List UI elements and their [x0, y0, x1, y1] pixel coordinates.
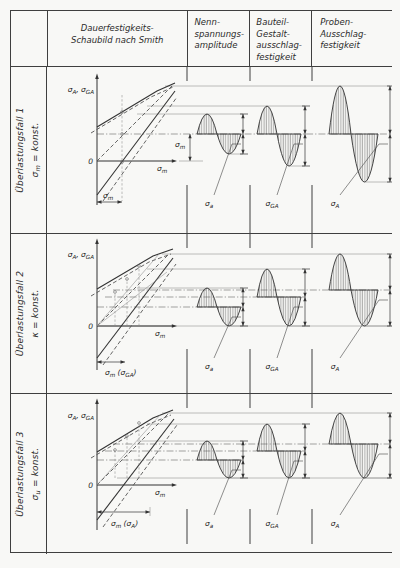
case-3-rotated-label: Überlastungsfall 3 σu = konst. — [13, 394, 46, 554]
wave-negative-pulse — [277, 134, 301, 166]
upper-limit-curve — [97, 410, 173, 452]
dimension-arrowhead — [303, 293, 306, 297]
wave-negative-pulse — [277, 451, 301, 478]
header-line: Gestalt- — [256, 29, 311, 41]
dimension-arrowhead — [303, 106, 306, 110]
overload-case-1-row: Überlastungsfall 1 σm = konst. — [11, 67, 392, 234]
case-1-label-cell: Überlastungsfall 1 σm = konst. — [11, 67, 47, 233]
dimension-arrowhead — [118, 200, 123, 203]
dimension-arrowhead — [388, 178, 391, 182]
dimension-arrowhead — [388, 322, 391, 326]
dimension-arrowhead — [97, 510, 102, 513]
case-condition: σu = konst. — [28, 394, 46, 554]
dimension-arrowhead — [303, 447, 306, 451]
dimension-arrowhead — [303, 451, 306, 455]
wave-negative-pulse — [351, 134, 378, 182]
wave-positive-pulse — [329, 86, 351, 134]
dimension-arrowhead — [241, 441, 244, 445]
case-2-label-cell: Überlastungsfall 2 κ = konst. — [11, 234, 47, 393]
wave-positive-pulse — [257, 424, 277, 451]
dimension-arrowhead — [303, 134, 306, 138]
header-line: Schaubild nach Smith — [48, 35, 187, 47]
dimension-arrowhead — [303, 269, 306, 273]
header-smith-diagram: Dauerfestigkeits- Schaubild nach Smith — [48, 11, 188, 66]
dimension-arrowhead — [388, 440, 391, 444]
case-1-rotated-label: Überlastungsfall 1 σm = konst. — [13, 67, 46, 233]
case-name: Überlastungsfall 1 — [13, 67, 28, 233]
dimension-arrowhead — [303, 322, 306, 326]
dimension-arrowhead — [241, 303, 244, 307]
smith-diagram-case-3 — [68, 399, 177, 531]
dimension-arrowhead — [97, 200, 102, 203]
x-axis-arrow-icon — [172, 483, 177, 487]
header-line: Dauerfestigkeits- — [48, 23, 187, 35]
wave-positive-pulse — [257, 269, 277, 297]
wave-negative-pulse — [351, 444, 378, 478]
dimension-arrowhead — [97, 360, 102, 363]
dimension-arrowhead — [241, 114, 244, 118]
upper-limit-curve — [97, 83, 175, 127]
x-axis-arrow-icon — [172, 324, 177, 328]
wave-positive-pulse — [197, 114, 217, 134]
dimension-arrowhead — [388, 254, 391, 258]
case-name: Überlastungsfall 3 — [13, 394, 28, 554]
wave-positive-pulse — [329, 254, 351, 290]
dimension-arrowhead — [303, 130, 306, 134]
fatigue-diagram-page: σA, σGA 0 σm σm (σGA) σm (σA) σa σGA σA … — [0, 0, 400, 568]
origin-ray — [97, 272, 167, 326]
case-name: Überlastungsfall 2 — [13, 234, 28, 393]
header-line: spannungs- — [195, 29, 250, 41]
y-axis-arrow-icon — [95, 399, 99, 405]
dimension-arrowhead — [146, 510, 151, 513]
dimension-arrowhead — [388, 86, 391, 90]
dimension-arrowhead — [121, 360, 126, 363]
dimension-arrowhead — [241, 460, 244, 464]
x-axis-arrow-icon — [172, 159, 177, 163]
header-line: festigkeit — [320, 40, 392, 52]
dimension-arrowhead — [388, 413, 391, 417]
smith-diagram-case-1 — [68, 74, 177, 206]
lower-limit-curve — [97, 91, 175, 195]
origin-ray — [97, 254, 159, 326]
dimension-arrowhead — [388, 134, 391, 138]
row-2-drawing — [47, 234, 392, 393]
wave-positive-pulse — [329, 413, 351, 444]
dimension-arrowhead — [388, 290, 391, 294]
wave-labels — [205, 362, 340, 372]
header-line: Bauteil- — [256, 17, 311, 29]
45-degree-line — [97, 86, 172, 161]
dimension-arrowhead — [388, 286, 391, 290]
wave-positive-pulse — [257, 106, 277, 134]
header-corner-cell — [11, 11, 48, 66]
dimension-arrowhead — [241, 456, 244, 460]
case-condition: κ = konst. — [28, 234, 46, 393]
intersection-point — [126, 278, 129, 281]
wave-negative-pulse — [217, 460, 241, 478]
dimension-arrowhead — [241, 474, 244, 478]
dimension-arrowhead — [241, 322, 244, 326]
header-component-shape-strength: Bauteil- Gestalt- ausschlag- festigkeit — [250, 11, 312, 66]
dimension-arrowhead — [303, 297, 306, 301]
lower-limit-curve — [97, 258, 173, 358]
waveforms-group — [97, 254, 392, 358]
smith-diagram-case-2 — [68, 239, 177, 379]
dimension-arrowhead — [388, 474, 391, 478]
wave-labels — [205, 519, 340, 529]
y-axis-arrow-icon — [95, 239, 99, 245]
y-axis-arrow-icon — [95, 74, 99, 80]
dimension-arrowhead — [241, 134, 244, 138]
overload-case-3-row: Überlastungsfall 3 σu = konst. — [11, 394, 392, 554]
lower-limit-curve-dashed — [103, 97, 177, 201]
45-degree-line — [97, 413, 169, 485]
header-line: amplitude — [195, 40, 250, 52]
case-condition: σm = konst. — [28, 67, 46, 233]
header-line: Nenn- — [195, 17, 250, 29]
header-line: Ausschlag- — [320, 29, 392, 41]
diagram-table: Dauerfestigkeits- Schaubild nach Smith N… — [10, 10, 392, 553]
mean-stress-marker — [175, 134, 203, 161]
case-3-label-cell: Überlastungsfall 3 σu = konst. — [11, 394, 47, 554]
row-1-drawing — [47, 67, 392, 233]
header-specimen-strength: Proben- Ausschlag- festigkeit — [312, 11, 392, 66]
dimension-arrowhead — [241, 130, 244, 134]
wave-positive-pulse — [197, 288, 217, 307]
